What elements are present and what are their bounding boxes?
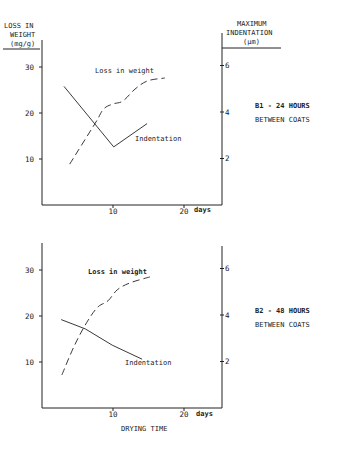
left-y-tick-label: 20	[25, 109, 35, 118]
figure: LOSS IN WEIGHT (mg/g) MAXIMUM INDENTATIO…	[0, 0, 355, 457]
plot-1: 1020302461020	[25, 33, 230, 216]
x-tick-label: 20	[179, 410, 189, 419]
x-unit-label: days	[194, 206, 211, 214]
annotation-indentation: Indentation	[125, 359, 171, 367]
x-tick-label: 20	[179, 207, 189, 216]
left-y-tick-label: 30	[25, 266, 35, 275]
right-axis-label-line3: (µm)	[243, 38, 260, 46]
x-unit-label: days	[196, 410, 213, 418]
right-axis-label-line2: INDENTATION	[226, 29, 272, 37]
x-tick-label: 10	[108, 207, 118, 216]
panel-label-line1: B2 - 48 HOURS	[255, 307, 310, 315]
right-y-tick-label: 6	[225, 264, 230, 273]
right-y-tick-label: 2	[225, 154, 230, 163]
x-tick-label: 10	[108, 410, 118, 419]
panel-1: LOSS IN WEIGHT (mg/g) MAXIMUM INDENTATIO…	[3, 20, 310, 214]
panel-label-line2: BETWEEN COATS	[255, 321, 310, 329]
right-y-tick-label: 2	[225, 357, 230, 366]
left-y-tick-label: 10	[25, 358, 35, 367]
left-axis-label-line2: WEIGHT	[10, 31, 36, 39]
left-axis-label-line1: LOSS IN	[4, 22, 34, 30]
right-axis-label-line1: MAXIMUM	[237, 20, 267, 28]
panel-label-line1: B1 - 24 HOURS	[255, 102, 310, 110]
right-y-tick-label: 6	[225, 61, 230, 70]
left-y-tick-label: 20	[25, 312, 35, 321]
right-y-tick-label: 4	[225, 108, 230, 117]
right-y-tick-label: 4	[225, 311, 230, 320]
series-loss-in-weight-line	[70, 78, 165, 164]
panel-label-line2: BETWEEN COATS	[255, 116, 310, 124]
annotation-loss-in-weight: Loss in weight	[95, 67, 154, 75]
x-axis-title: DRYING TIME	[121, 425, 167, 433]
series-indentation-line	[61, 320, 142, 360]
left-y-tick-label: 10	[25, 155, 35, 164]
left-y-tick-label: 30	[25, 63, 35, 72]
annotation-indentation: Indentation	[135, 135, 181, 143]
annotation-loss-in-weight: Loss in weight	[88, 268, 147, 276]
left-axis-label-line3: (mg/g)	[10, 40, 35, 48]
